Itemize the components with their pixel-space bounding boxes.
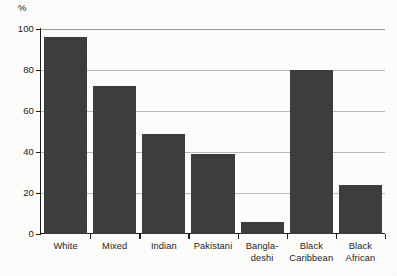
- y-axis-tick: [36, 152, 40, 153]
- x-axis-tick: [336, 234, 337, 239]
- y-axis-tick-labels: 020406080100: [0, 0, 34, 276]
- bar: [290, 70, 333, 234]
- gridline: [41, 29, 385, 30]
- bar: [339, 185, 382, 234]
- x-axis-tick: [139, 234, 140, 239]
- bar: [191, 154, 234, 234]
- y-axis-tick-label: 40: [4, 146, 34, 157]
- y-axis-tick-label: 60: [4, 105, 34, 116]
- y-axis-tick-label: 100: [4, 23, 34, 34]
- bar-chart: % 020406080100 WhiteMixedIndianPakistani…: [0, 0, 397, 276]
- x-axis-label-line: African: [330, 253, 391, 265]
- bar: [44, 37, 87, 234]
- x-axis-category-label: BlackAfrican: [330, 241, 391, 264]
- y-axis-tick: [36, 111, 40, 112]
- y-axis-tick-label: 80: [4, 64, 34, 75]
- bar: [142, 134, 185, 234]
- x-axis-tick: [287, 234, 288, 239]
- bar: [93, 86, 136, 234]
- y-axis-tick-label: 0: [4, 228, 34, 239]
- x-axis-tick: [188, 234, 189, 239]
- y-axis-tick: [36, 70, 40, 71]
- y-axis-tick-label: 20: [4, 187, 34, 198]
- y-axis-tick: [36, 29, 40, 30]
- x-axis-tick: [385, 234, 386, 239]
- x-axis-label-line: Black: [330, 241, 391, 253]
- y-axis-tick: [36, 234, 40, 235]
- bar: [241, 222, 284, 234]
- y-axis-tick: [36, 193, 40, 194]
- x-axis-tick: [238, 234, 239, 239]
- gridline: [41, 70, 385, 71]
- plot-area: [41, 29, 385, 234]
- x-axis-tick: [90, 234, 91, 239]
